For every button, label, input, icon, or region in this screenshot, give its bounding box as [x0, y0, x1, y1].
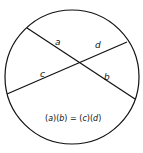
label-b: b: [104, 72, 110, 82]
equation: (a)(b) = (c)(d): [45, 114, 101, 123]
label-c: c: [40, 69, 45, 79]
label-d: d: [95, 40, 101, 50]
chord-cd: [7, 42, 127, 94]
circle: [5, 10, 139, 144]
chord-diagram: a d c b (a)(b) = (c)(d): [0, 0, 143, 153]
label-a: a: [55, 37, 61, 47]
chord-ab: [27, 28, 135, 99]
